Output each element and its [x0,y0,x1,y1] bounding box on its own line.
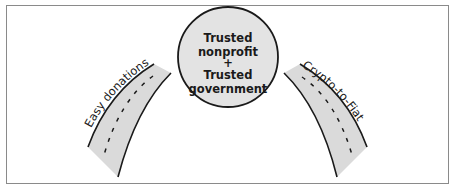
center-line-1: Trusted [204,31,253,45]
center-node: Trusted nonprofit + Trusted government [178,7,278,107]
diagram-canvas: Easy donations Crypto-to-Fiat Trusted no… [0,0,456,190]
center-line-4: Trusted [204,68,253,82]
center-line-5: government [189,82,268,96]
